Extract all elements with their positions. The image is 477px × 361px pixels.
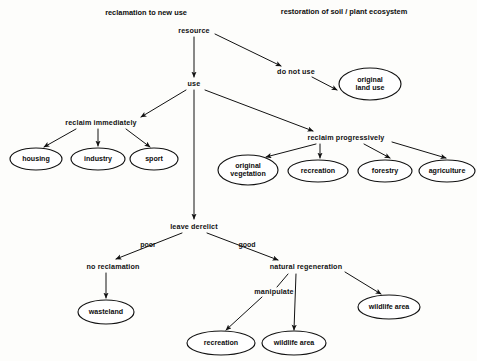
text-node-no-reclamation[interactable]: no reclamation [86, 263, 139, 271]
ellipse-node-original-vegetation[interactable] [218, 155, 278, 185]
diagram-edges-layer [0, 0, 477, 361]
ellipse-node-wildlife-area-center[interactable] [262, 331, 326, 355]
edge-reclaim-progressively-to-original-vegetation [266, 144, 316, 157]
text-node-reclaim-immediately[interactable]: reclaim immediately [65, 119, 136, 127]
text-node-use[interactable]: use [188, 80, 201, 88]
ellipse-node-wildlife-area-right[interactable] [358, 295, 420, 319]
edge-label-edge-poor: poor [140, 241, 156, 248]
ellipse-node-wasteland[interactable] [78, 300, 134, 324]
edge-manipulate-to-recreation [226, 297, 262, 330]
text-node-natural-regeneration[interactable]: natural regeneration [270, 263, 342, 271]
edge-reclaim-immediately-to-sport [126, 129, 150, 147]
edge-reclaim-progressively-to-agriculture [392, 142, 446, 158]
ellipse-node-recreation-manipulate[interactable] [187, 331, 255, 355]
section-header-right: restoration of soil / plant ecosystem [281, 7, 408, 16]
text-node-resource[interactable]: resource [178, 27, 210, 35]
edge-natural-regeneration-to-manipulate [277, 274, 288, 287]
ellipse-node-original-land-use[interactable] [339, 68, 401, 100]
edge-reclaim-progressively-to-forestry [364, 144, 390, 158]
edge-do-not-use-to-original-land-use [312, 77, 337, 90]
ellipse-node-housing[interactable] [10, 148, 62, 170]
edge-reclaim-immediately-to-housing [44, 129, 76, 147]
ellipse-node-sport[interactable] [130, 148, 178, 170]
edge-use-to-reclaim-progressively [205, 90, 313, 131]
text-node-do-not-use[interactable]: do not use [277, 68, 315, 76]
edge-natural-regeneration-to-wildlife-area-center [294, 274, 296, 330]
diagram-canvas: originalland usehousingindustrysportorig… [0, 0, 477, 361]
edge-use-to-reclaim-immediately [141, 90, 186, 117]
text-node-reclaim-progressively[interactable]: reclaim progressively [308, 134, 385, 142]
ellipses-group [10, 68, 475, 355]
edge-label-edge-good: good [238, 241, 255, 248]
ellipse-node-recreation-progressive[interactable] [288, 160, 348, 182]
edge-resource-to-do-not-use [215, 34, 281, 66]
section-header-left: reclamation to new use [105, 8, 187, 17]
ellipse-node-industry[interactable] [71, 148, 125, 170]
edge-natural-regeneration-to-wildlife-area-right [345, 272, 381, 294]
ellipse-node-forestry[interactable] [358, 160, 412, 182]
text-node-manipulate[interactable]: manipulate [254, 288, 293, 296]
ellipse-node-agriculture[interactable] [419, 160, 475, 182]
text-node-leave-derelict[interactable]: leave derelict [170, 223, 218, 231]
